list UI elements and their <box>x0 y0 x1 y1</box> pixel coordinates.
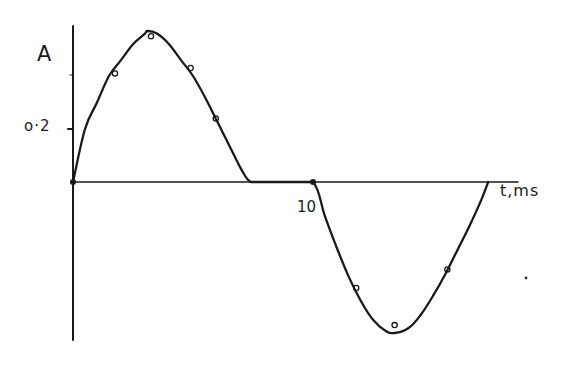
filled-dot-marker <box>70 179 76 185</box>
chart-canvas <box>0 0 565 370</box>
x-axis-label: t,ms <box>500 181 539 200</box>
measured-points <box>112 34 450 328</box>
data-point-marker <box>112 71 117 76</box>
stray-ink-dot <box>525 277 528 280</box>
y-tick-label-0-2: o·2 <box>24 117 51 135</box>
filled-dot-marker <box>310 179 316 185</box>
x-tick-label-10: 10 <box>297 198 316 216</box>
y-axis-label: A <box>37 42 51 66</box>
data-point-marker <box>392 323 397 328</box>
data-point-marker <box>148 34 153 39</box>
data-point-marker <box>188 65 193 70</box>
